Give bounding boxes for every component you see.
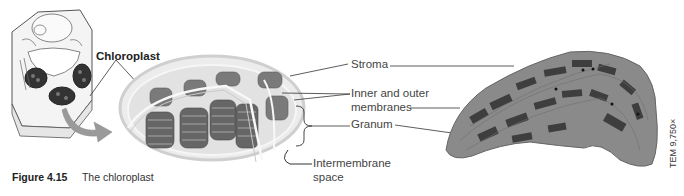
membranes-label-line1: Inner and outer — [351, 87, 429, 100]
chloroplast-cutaway — [120, 56, 304, 162]
chloroplast-label: Chloroplast — [96, 50, 160, 62]
intermembrane-label-line2: space — [313, 171, 344, 184]
membranes-label-line2: membranes — [351, 101, 412, 114]
intermembrane-label-line1: Intermembrane — [313, 157, 391, 170]
stroma-leader — [290, 64, 348, 76]
stroma-label: Stroma — [351, 58, 388, 71]
plant-cell-drawing — [12, 10, 92, 138]
figure-caption: Figure 4.15 The chloroplast — [12, 167, 154, 185]
tem-micrograph — [446, 51, 657, 166]
granum-label: Granum — [351, 118, 393, 131]
figure-title: The chloroplast — [82, 171, 154, 183]
tem-magnification-label: TEM 9,750× — [668, 119, 678, 168]
figure-number: Figure 4.15 — [12, 171, 67, 183]
